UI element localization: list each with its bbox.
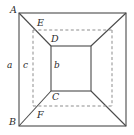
vertex-label-d: D (51, 34, 59, 43)
diagonal-bottom-left (19, 91, 51, 126)
dimension-label-b: b (54, 61, 60, 70)
diagonal-bottom-right (91, 91, 126, 126)
vertex-label-b: B (9, 117, 16, 126)
vertex-label-a: A (10, 5, 17, 14)
vertex-label-f: F (37, 110, 44, 119)
dimension-label-c: c (23, 61, 28, 70)
frustum-diagram: A B C D E F a c b (0, 0, 134, 135)
vertex-label-c: C (52, 92, 59, 101)
dimension-label-a: a (7, 61, 12, 70)
diagram-canvas (0, 0, 134, 135)
vertex-label-e: E (37, 18, 44, 27)
diagonal-top-right (91, 13, 126, 46)
